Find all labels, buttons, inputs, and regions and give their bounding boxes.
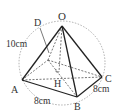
label-B: B: [74, 101, 81, 112]
label-D: D: [34, 17, 41, 28]
label-edge-AB: 8cm: [34, 96, 51, 106]
pyramid-diagram: O D 10cm C A H 8cm 8cm B: [0, 0, 121, 112]
label-edge-BC: 8cm: [93, 84, 110, 94]
label-H: H: [54, 78, 61, 89]
label-C: C: [105, 73, 112, 84]
label-O: O: [58, 10, 66, 22]
visible-edges: [22, 26, 102, 97]
diagram-svg: O D 10cm C A H 8cm 8cm B: [0, 0, 121, 112]
label-edge-OA: 10cm: [6, 39, 28, 49]
label-A: A: [11, 84, 19, 95]
